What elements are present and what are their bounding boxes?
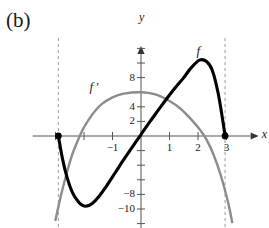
- y-tick-label: −10: [118, 202, 135, 214]
- endpoint-dot: [55, 133, 62, 140]
- y-tick-label: 4: [130, 100, 136, 112]
- x-tick-label: 1: [160, 141, 180, 153]
- curve-f-prime: [56, 92, 233, 222]
- figure-panel-b: (b) y x f f ′ −1123842−8−10: [0, 0, 269, 228]
- x-tick-label: 2: [188, 141, 208, 153]
- x-tick-label: −1: [103, 141, 123, 153]
- x-axis-arrowhead: [251, 132, 259, 139]
- x-axis-label: x: [262, 127, 267, 142]
- f-prime-curve-label: f ′: [89, 79, 98, 95]
- y-tick-label: −8: [123, 187, 135, 199]
- x-tick-label: 3: [217, 141, 237, 153]
- y-tick-label: 8: [130, 71, 136, 83]
- curve-f: [58, 60, 225, 207]
- f-curve-label: f: [196, 43, 200, 59]
- panel-label: (b): [6, 8, 31, 33]
- endpoint-dot: [222, 133, 229, 140]
- y-axis-arrowhead: [137, 46, 144, 54]
- y-axis-label: y: [139, 10, 144, 25]
- y-tick-label: 2: [130, 114, 136, 126]
